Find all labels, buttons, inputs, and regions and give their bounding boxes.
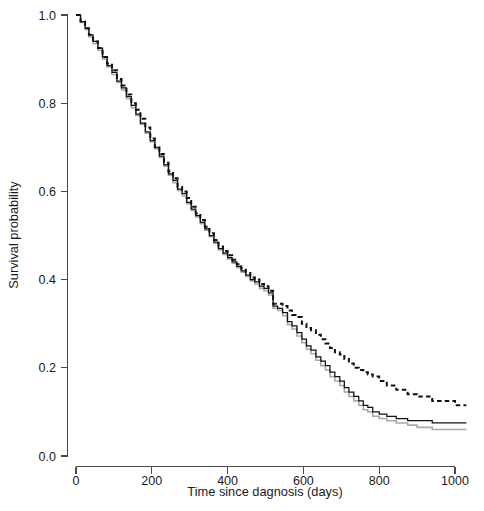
y-tick-label: 1.0 [39,9,56,23]
x-tick-label: 200 [141,474,162,488]
curve-solid-dark [76,15,466,423]
y-axis-title: Survival probability [6,181,21,289]
y-tick-label: 0.0 [39,450,56,464]
y-tick-label: 0.8 [39,97,56,111]
y-tick-label: 0.4 [39,273,56,287]
x-tick-label: 800 [369,474,390,488]
x-tick-label: 0 [73,474,80,488]
x-tick-label: 1000 [441,474,469,488]
x-axis-title: Time since dagnosis (days) [187,484,342,499]
y-tick-label: 0.2 [39,361,56,375]
curve-group [76,15,466,430]
curve-solid-gray [76,15,466,430]
curve-dashed [76,15,466,405]
y-tick-label: 0.6 [39,185,56,199]
survival-chart: 0.00.20.40.60.81.0 02004006008001000 Tim… [0,0,484,511]
y-tick-group: 0.00.20.40.60.81.0 [39,9,68,464]
figure-container: 0.00.20.40.60.81.0 02004006008001000 Tim… [0,0,484,511]
clipped-caption [0,500,484,511]
